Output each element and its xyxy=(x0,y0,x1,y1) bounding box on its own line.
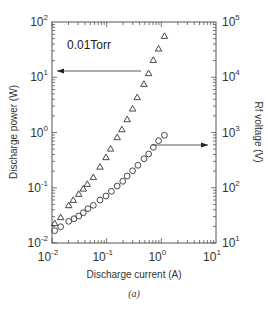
y-right-tick-label: 104 xyxy=(222,68,240,84)
y-right-tick-labels: 101102103104105 xyxy=(222,13,240,250)
axis-indicator-arrows xyxy=(57,69,208,148)
y-right-tick-label: 103 xyxy=(222,124,240,140)
circle-marker xyxy=(108,188,114,194)
triangle-marker xyxy=(114,134,120,140)
y-right-tick-label: 102 xyxy=(222,179,240,195)
arrow-left-icon xyxy=(57,69,141,74)
triangle-marker xyxy=(97,164,103,170)
circle-marker xyxy=(141,156,147,162)
y-right-tick-label: 105 xyxy=(222,13,240,29)
circle-marker xyxy=(130,168,136,174)
circle-marker xyxy=(162,132,168,138)
triangle-marker xyxy=(141,81,147,87)
y-left-tick-label: 102 xyxy=(30,13,48,29)
circle-marker xyxy=(85,206,91,212)
triangle-marker xyxy=(70,197,76,203)
triangle-marker xyxy=(57,214,63,220)
triangle-marker xyxy=(124,116,130,122)
triangle-marker xyxy=(161,33,167,39)
triangle-marker xyxy=(84,181,90,187)
circle-marker xyxy=(58,224,64,230)
axis-ticks xyxy=(52,22,216,243)
x-tick-label: 10-1 xyxy=(92,248,113,264)
circle-marker xyxy=(52,228,58,234)
triangle-marker xyxy=(150,57,156,63)
x-tick-label: 100 xyxy=(148,248,166,264)
triangle-marker xyxy=(107,146,113,152)
x-axis-label: Discharge current (A) xyxy=(86,269,181,280)
y-left-tick-label: 101 xyxy=(30,68,48,84)
pressure-annotation: 0.01Torr xyxy=(67,38,111,52)
triangle-marker xyxy=(145,70,151,76)
chart: 10-210-1100101 10-210-1100101102 1011021… xyxy=(0,0,268,310)
triangle-marker xyxy=(76,191,82,197)
circle-marker xyxy=(146,151,152,157)
circle-marker xyxy=(135,162,141,168)
x-tick-label: 10-2 xyxy=(38,248,59,264)
triangle-marker xyxy=(65,202,71,208)
x-tick-label: 101 xyxy=(203,248,221,264)
circle-marker xyxy=(114,183,120,189)
circle-marker xyxy=(66,218,72,224)
y-left-tick-label: 100 xyxy=(30,124,48,140)
triangle-marker xyxy=(134,94,140,100)
y-right-axis-label: Rf voltage (V) xyxy=(253,101,264,162)
circle-marker xyxy=(156,138,162,144)
triangle-marker xyxy=(90,174,96,180)
y-left-axis-label: Discharge power (W) xyxy=(8,85,19,179)
circle-marker xyxy=(90,202,96,208)
triangle-marker xyxy=(119,126,125,132)
y-right-tick-label: 101 xyxy=(222,234,240,250)
triangle-marker xyxy=(155,45,161,51)
circle-marker xyxy=(120,178,126,184)
series-discharge-power-triangles xyxy=(51,33,167,226)
triangle-marker xyxy=(103,154,109,160)
circle-marker xyxy=(103,193,109,199)
figure-caption: (a) xyxy=(128,288,140,300)
circle-marker xyxy=(97,197,103,203)
y-left-tick-labels: 10-210-1100101102 xyxy=(28,13,49,250)
plot-frame xyxy=(52,22,216,243)
circle-marker xyxy=(124,173,130,179)
x-tick-labels: 10-210-1100101 xyxy=(38,248,222,264)
y-left-tick-label: 10-2 xyxy=(28,234,49,250)
triangle-marker xyxy=(129,105,135,111)
y-left-tick-label: 10-1 xyxy=(28,179,49,195)
